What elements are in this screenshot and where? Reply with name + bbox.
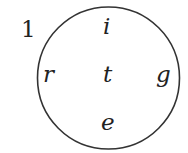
letter-center: t [103, 61, 113, 87]
letter-left: r [43, 61, 56, 87]
letter-top: i [103, 13, 110, 39]
letter-bottom: e [101, 109, 115, 135]
number-label: 1 [21, 16, 36, 42]
letter-circle-diagram: 1 i r t g e [0, 0, 188, 153]
letter-right: g [156, 61, 171, 87]
